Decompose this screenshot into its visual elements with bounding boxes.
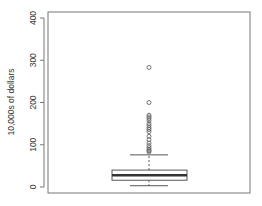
- boxplot-chart: 0100200300400 10,000s of dollars: [0, 0, 262, 206]
- box: [112, 155, 187, 186]
- y-axis-label: 10,000s of dollars: [6, 68, 16, 135]
- y-tick-label: 300: [28, 53, 38, 67]
- y-axis-ticks: 0100200300400: [28, 11, 44, 190]
- outlier-point: [147, 65, 151, 69]
- y-tick-label: 100: [28, 137, 38, 151]
- outlier-points: [147, 65, 151, 153]
- y-tick-label: 200: [28, 95, 38, 109]
- y-tick-label: 0: [28, 184, 38, 189]
- y-tick-label: 400: [28, 11, 38, 25]
- outlier-point: [147, 101, 151, 105]
